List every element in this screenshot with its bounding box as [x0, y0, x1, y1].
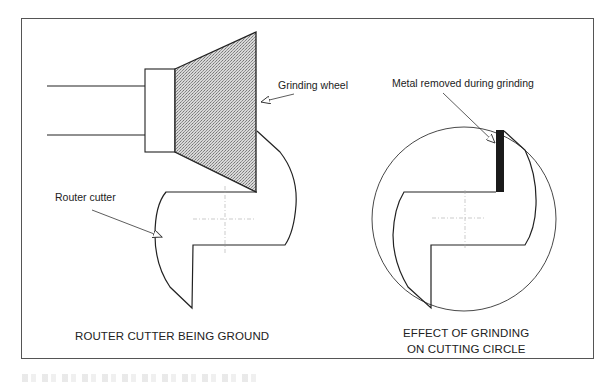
grinding-diagram: Grinding wheel Router cutter ROUTER CUTT…	[0, 0, 612, 386]
figure-caption	[22, 374, 262, 382]
grinding-wheel-label: Grinding wheel	[278, 79, 348, 91]
router-cutter-leader-arrow	[92, 210, 162, 237]
grinding-wheel-leader-arrow	[261, 94, 294, 102]
figure-frame	[22, 19, 594, 359]
right-panel-title-line1: EFFECT OF GRINDING	[403, 327, 529, 339]
removed-metal-strip	[496, 130, 504, 192]
router-cutter-label: Router cutter	[55, 191, 116, 203]
cutting-circle	[372, 127, 556, 311]
ground-cutter-outline	[393, 131, 536, 308]
grinding-wheel	[175, 32, 256, 192]
spindle-collar	[145, 69, 175, 152]
right-panel-title-line2: ON CUTTING CIRCLE	[407, 343, 526, 355]
left-panel: Grinding wheel Router cutter ROUTER CUTT…	[47, 32, 348, 342]
metal-removed-leader-arrow	[443, 93, 495, 143]
right-panel: Metal removed during grinding EFFECT OF …	[372, 77, 556, 355]
metal-removed-label: Metal removed during grinding	[392, 77, 534, 89]
left-panel-title: ROUTER CUTTER BEING GROUND	[75, 330, 269, 342]
